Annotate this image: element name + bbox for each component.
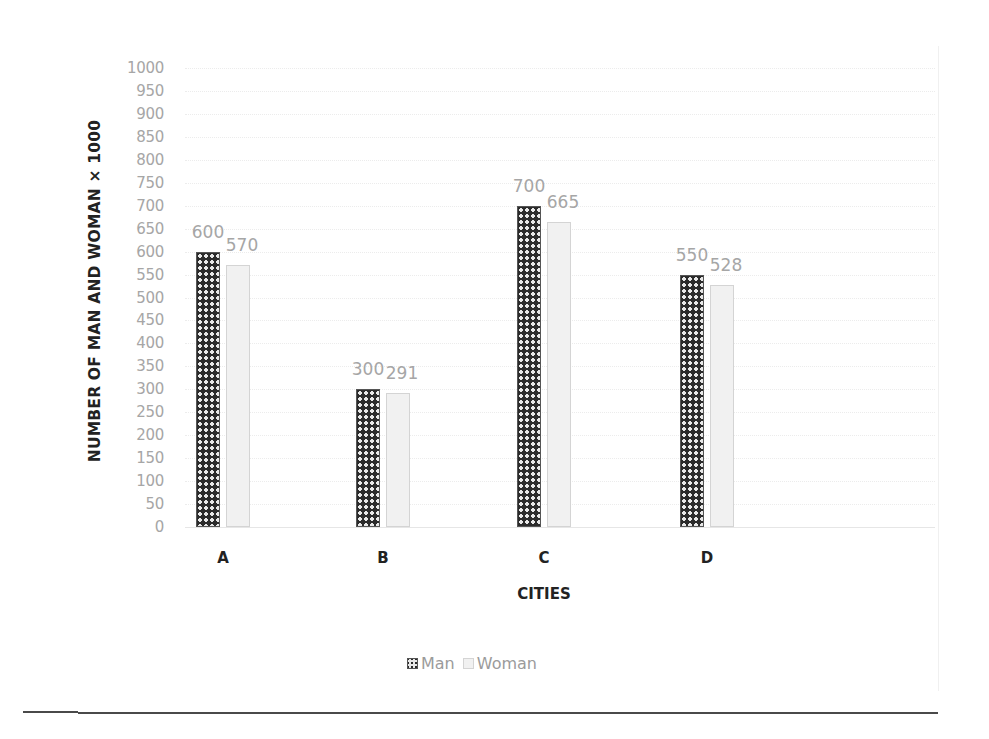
gridline (185, 183, 935, 184)
legend-label-woman: Woman (477, 654, 537, 673)
data-label-woman-c: 665 (533, 192, 593, 212)
y-tick-label: 650 (104, 220, 164, 238)
y-tick-label: 300 (104, 380, 164, 398)
bar-man-c (517, 206, 541, 527)
gridline (185, 137, 935, 138)
bar-woman-a (226, 265, 250, 527)
y-tick-label: 150 (104, 449, 164, 467)
legend-label-man: Man (421, 654, 455, 673)
legend-item-woman: Woman (463, 654, 537, 673)
gridline (185, 91, 935, 92)
y-tick-label: 250 (104, 403, 164, 421)
y-tick-label: 500 (104, 289, 164, 307)
bar-man-d (680, 275, 704, 527)
x-category-label-d: D (677, 549, 737, 567)
legend-item-man: Man (407, 654, 455, 673)
gridline (185, 68, 935, 69)
y-tick-label: 450 (104, 311, 164, 329)
y-tick-label: 850 (104, 128, 164, 146)
data-label-woman-b: 291 (372, 363, 432, 383)
x-axis-line (185, 527, 935, 528)
y-tick-label: 50 (104, 495, 164, 513)
y-tick-label: 550 (104, 266, 164, 284)
y-axis-title-text: NUMBER OF MAN AND WOMAN × 1000 (86, 120, 104, 462)
chart-border (938, 46, 939, 691)
y-tick-label: 400 (104, 334, 164, 352)
bar-chart: 0501001502002503003504004505005506006507… (0, 0, 989, 739)
gridline (185, 160, 935, 161)
bar-woman-c (547, 222, 571, 527)
y-tick-label: 1000 (104, 59, 164, 77)
y-tick-label: 200 (104, 426, 164, 444)
bar-woman-d (710, 285, 734, 527)
bar-man-b (356, 389, 380, 527)
y-tick-label: 700 (104, 197, 164, 215)
y-tick-label: 900 (104, 105, 164, 123)
y-tick-label: 800 (104, 151, 164, 169)
y-tick-label: 750 (104, 174, 164, 192)
y-tick-label: 950 (104, 82, 164, 100)
y-tick-label: 600 (104, 243, 164, 261)
data-label-woman-d: 528 (696, 255, 756, 275)
x-category-label-c: C (514, 549, 574, 567)
gridline (185, 114, 935, 115)
bar-man-a (196, 252, 220, 527)
x-category-label-b: B (353, 549, 413, 567)
legend: Man Woman (407, 654, 537, 673)
bar-woman-b (386, 393, 410, 527)
legend-swatch-woman-icon (463, 658, 474, 669)
data-label-woman-a: 570 (212, 235, 272, 255)
y-tick-label: 0 (104, 518, 164, 536)
divider-rule (78, 712, 938, 714)
x-category-label-a: A (193, 549, 253, 567)
legend-swatch-man-icon (407, 658, 418, 669)
x-axis-title: CITIES (444, 585, 644, 603)
y-tick-label: 350 (104, 357, 164, 375)
y-tick-label: 100 (104, 472, 164, 490)
divider-rule (23, 711, 78, 713)
